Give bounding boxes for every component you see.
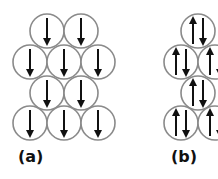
panel-b-lattice [164, 14, 218, 140]
lattice-site [64, 76, 98, 110]
site-circle [198, 45, 218, 79]
site-circle [181, 14, 215, 48]
lattice-site [81, 106, 115, 140]
panel-a-lattice [13, 14, 115, 140]
lattice-site [198, 106, 218, 140]
lattice-site [64, 14, 98, 48]
lattice-site [30, 76, 64, 110]
site-circle [164, 106, 198, 140]
panel-b-label: (b) [171, 147, 197, 166]
lattice-site [181, 14, 215, 48]
site-circle [181, 76, 215, 110]
site-circle [164, 45, 198, 79]
lattice-site [30, 14, 64, 48]
lattice-site [47, 45, 81, 79]
lattice-site [47, 106, 81, 140]
lattice-site [13, 106, 47, 140]
panel-a-label: (a) [18, 147, 43, 166]
lattice-site [181, 76, 215, 110]
lattice-site [164, 106, 198, 140]
site-circle [198, 106, 218, 140]
lattice-site [13, 45, 47, 79]
lattice-site [164, 45, 198, 79]
lattice-site [198, 45, 218, 79]
lattice-site [81, 45, 115, 79]
